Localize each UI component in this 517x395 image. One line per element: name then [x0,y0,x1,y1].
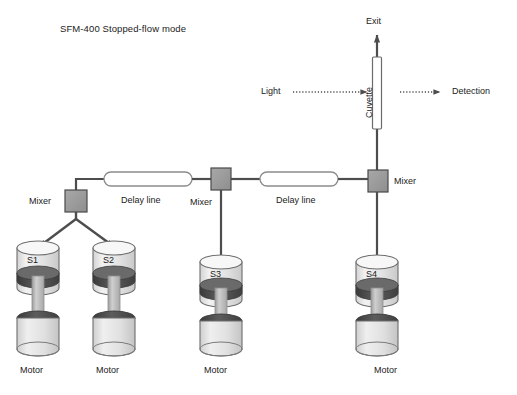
delay-line-1-body [104,172,192,186]
light-label: Light [261,87,281,96]
motor-label-s1: Motor [20,366,43,375]
syringe-s3-label: S3 [210,270,221,279]
mixer1-to-delay1-line [76,179,104,190]
mixer-1-block [65,190,87,212]
diagram-title: SFM-400 Stopped-flow mode [60,24,186,34]
delay-line-2-body [260,172,338,186]
syringe-s1-label: S1 [27,256,38,265]
exit-label: Exit [366,17,381,26]
s1-barrel-rim [17,241,59,255]
delay-line-1-label: Delay line [121,196,161,205]
syringe-s2-label: S2 [103,256,114,265]
s1-motor-body [17,318,59,356]
s2-barrel-rim [93,241,135,255]
motor-label-s3: Motor [204,366,227,375]
s3-motor-body [200,321,242,356]
mixer-2-label: Mixer [190,198,212,207]
mixer-3-block [368,170,388,192]
mixer-2-block [211,168,231,190]
detection-label: Detection [452,87,490,96]
delay-line-2-label: Delay line [276,196,316,205]
s4-barrel-rim [356,255,398,269]
s2-motor-body [93,318,135,356]
motor-label-s4: Motor [374,366,397,375]
syringe-s4-label: S4 [366,270,377,279]
mixer-1-label: Mixer [29,197,51,206]
motor-label-s2: Motor [96,366,119,375]
diagram-canvas [0,0,517,395]
cuvette-label: Cuvette [365,87,374,118]
mixer-3-label: Mixer [394,177,416,186]
s3-barrel-rim [200,255,242,269]
s4-motor-body [356,321,398,356]
stopped-flow-diagram: SFM-400 Stopped-flow mode Exit Light Cuv… [0,0,517,395]
